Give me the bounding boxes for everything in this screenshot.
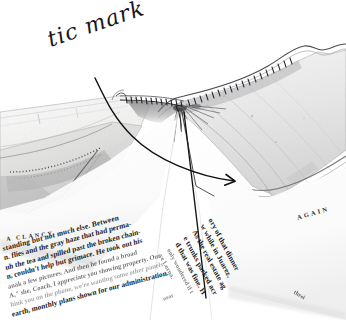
annotated-photo-canvas: tic mark A CLANCY standing but not much … xyxy=(0,0,346,320)
book-photograph xyxy=(0,0,346,320)
